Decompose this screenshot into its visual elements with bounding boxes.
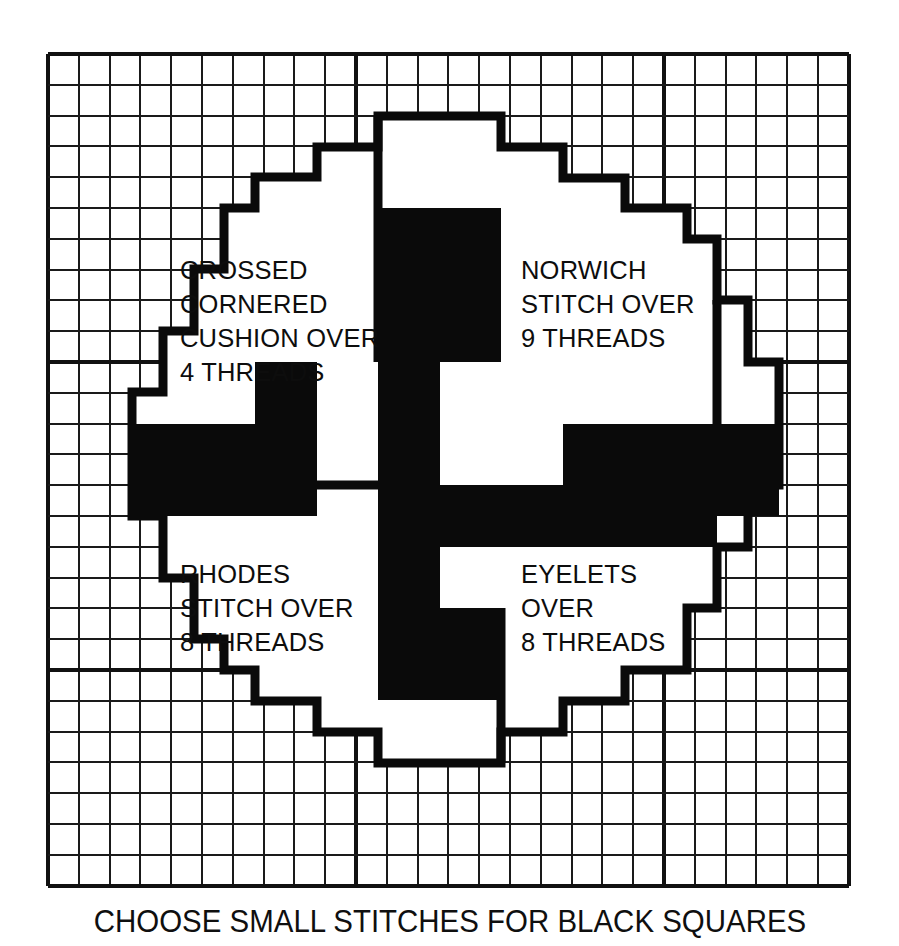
stitch-label-line: CORNERED xyxy=(180,290,328,318)
stitch-chart-canvas: CROSSEDCORNEREDCUSHION OVER4 THREADSNORW… xyxy=(0,0,899,946)
stitch-label-line: RHODES xyxy=(180,560,290,588)
stitch-label-line: 8 THREADS xyxy=(521,628,665,656)
top-center-block xyxy=(378,208,501,362)
stitch-label-line: 4 THREADS xyxy=(180,358,324,386)
right-upper-block xyxy=(563,424,779,516)
stitch-label-line: CROSSED xyxy=(180,256,308,284)
stitch-label-line: 9 THREADS xyxy=(521,324,665,352)
caption-label: CHOOSE SMALL STITCHES FOR BLACK SQUARES xyxy=(93,903,805,940)
stitch-label-line: NORWICH xyxy=(521,256,647,284)
chart-caption: CHOOSE SMALL STITCHES FOR BLACK SQUARES xyxy=(0,896,899,946)
stitch-label-line: OVER xyxy=(521,594,594,622)
stitch-label-line: CUSHION OVER xyxy=(180,324,379,352)
stitch-label-line: 8 THREADS xyxy=(180,628,324,656)
stitch-chart-root: CROSSEDCORNEREDCUSHION OVER4 THREADSNORW… xyxy=(0,0,899,946)
stitch-label-line: EYELETS xyxy=(521,560,637,588)
bottom-center-block xyxy=(378,608,501,700)
stitch-label-line: STITCH OVER xyxy=(521,290,695,318)
upper-left-arm xyxy=(132,424,317,516)
stitch-label-line: STITCH OVER xyxy=(180,594,354,622)
